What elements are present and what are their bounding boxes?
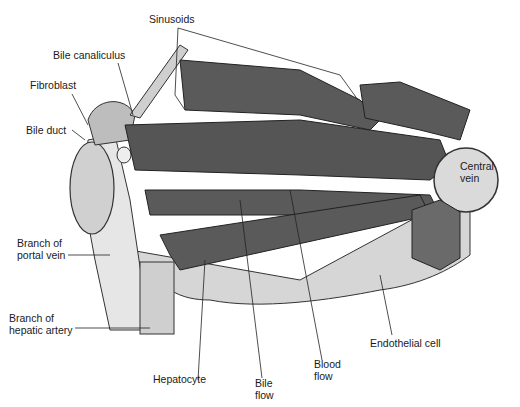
hepatocyte-block <box>412 200 460 270</box>
label-bile-canaliculus: Bile canaliculus <box>53 49 125 61</box>
vessel-stalk <box>130 45 188 118</box>
label-bile-duct: Bile duct <box>26 124 66 136</box>
hepatocyte-plate-top <box>180 60 380 130</box>
bile-duct-lumen <box>117 147 131 163</box>
label-bile-flow: Bile flow <box>255 377 274 401</box>
label-branch-hepatic-artery: Branch of hepatic artery <box>9 312 73 336</box>
hepatocyte-plate-middle <box>125 120 450 180</box>
label-sinusoids: Sinusoids <box>149 13 195 25</box>
label-branch-portal-vein: Branch of portal vein <box>17 237 65 261</box>
label-central-vein: Central vein <box>460 160 494 184</box>
hepatic-artery-branch <box>140 262 174 334</box>
label-blood-flow: Blood flow <box>314 358 341 382</box>
label-endothelial-cell: Endothelial cell <box>370 337 441 349</box>
label-hepatocyte: Hepatocyte <box>153 373 206 385</box>
liver-lobule-diagram <box>0 0 520 407</box>
label-fibroblast: Fibroblast <box>30 79 76 91</box>
portal-vessel <box>70 142 114 234</box>
